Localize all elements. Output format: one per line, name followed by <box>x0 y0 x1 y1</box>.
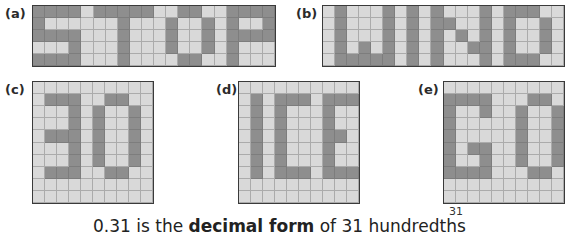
grid-cell <box>105 179 117 191</box>
grid-cell <box>190 30 202 42</box>
grid-cell-shaded <box>335 30 347 42</box>
grid-cell <box>504 106 516 118</box>
grid-cell <box>81 130 93 142</box>
grid-cell <box>57 106 69 118</box>
grid-cell <box>117 155 129 167</box>
grid-cell <box>33 94 45 106</box>
grid-cell <box>93 179 105 191</box>
grid-cell-shaded <box>202 42 214 54</box>
grid-cell <box>287 118 299 130</box>
grid-cell-shaded <box>166 42 178 54</box>
grid-cell-shaded <box>166 30 178 42</box>
grid-cell-shaded <box>45 6 57 18</box>
grid-cell <box>81 54 93 66</box>
grid-cell-shaded <box>251 6 263 18</box>
grid-cell <box>516 42 528 54</box>
grid-cell <box>444 54 456 66</box>
grid-cell <box>504 155 516 167</box>
grid-cell <box>516 191 528 203</box>
grid-cell-shaded <box>528 6 540 18</box>
grid-cell <box>33 106 45 118</box>
grid-cell <box>347 130 359 142</box>
grid-cell-shaded <box>504 18 516 30</box>
grid-cell <box>251 191 263 203</box>
grid-cell <box>45 106 57 118</box>
grid-cell-shaded <box>33 6 45 18</box>
grid-cell <box>141 191 153 203</box>
grid-cell <box>492 42 504 54</box>
grid-cell-shaded <box>275 94 287 106</box>
grid-cell-shaded <box>444 106 456 118</box>
grid-cell <box>480 130 492 142</box>
grid-cell <box>263 54 275 66</box>
grid-cell <box>528 30 540 42</box>
grid-cell <box>299 82 311 94</box>
grid-cell-shaded <box>552 130 564 142</box>
grid-cell <box>141 106 153 118</box>
grid-cell <box>419 54 431 66</box>
grid-cell-shaded <box>287 94 299 106</box>
grid-cell-shaded <box>299 94 311 106</box>
grid-cell-shaded <box>480 155 492 167</box>
grid-cell-shaded <box>129 155 141 167</box>
grid-cell-shaded <box>57 94 69 106</box>
grid-cell-shaded <box>57 54 69 66</box>
grid-cell-shaded <box>359 54 371 66</box>
grid-cell-shaded <box>69 94 81 106</box>
grid-cell <box>468 106 480 118</box>
grid-cell <box>323 179 335 191</box>
panel-label: (c) <box>5 82 25 97</box>
grid-cell <box>347 30 359 42</box>
grid-cell-shaded <box>444 155 456 167</box>
grid-cell <box>130 42 142 54</box>
grid-cell <box>540 82 552 94</box>
grid-cell <box>202 6 214 18</box>
grid-cell <box>444 82 456 94</box>
grid-cell <box>129 167 141 179</box>
grid-cell <box>81 118 93 130</box>
grid-cell <box>359 6 371 18</box>
grid-cell-shaded <box>93 106 105 118</box>
grid-cell-shaded <box>178 54 190 66</box>
grid-cell <box>323 54 335 66</box>
grid-cell <box>480 179 492 191</box>
grid-cell <box>57 179 69 191</box>
grid-cell <box>33 191 45 203</box>
grid-cell <box>516 30 528 42</box>
grid-cell-shaded <box>239 6 251 18</box>
grid-cell-shaded <box>516 54 528 66</box>
grid-cell <box>45 18 57 30</box>
grid-cell <box>504 118 516 130</box>
grid-cell <box>395 42 407 54</box>
grid-cell <box>347 143 359 155</box>
grid-cell-shaded <box>540 94 552 106</box>
grid-cell <box>239 155 251 167</box>
grid-cell-shaded <box>299 167 311 179</box>
grid-cell <box>468 6 480 18</box>
grid-cell <box>81 143 93 155</box>
grid-cell <box>323 191 335 203</box>
grid-cell <box>190 42 202 54</box>
panel-label: (e) <box>418 82 439 97</box>
grid-cell <box>552 30 564 42</box>
grid-cell-shaded <box>69 143 81 155</box>
grid-cell <box>311 155 323 167</box>
grid-cell-shaded <box>69 54 81 66</box>
grid-cell <box>468 30 480 42</box>
panel-label: (d) <box>216 82 237 97</box>
grid-cell <box>528 42 540 54</box>
grid-cell-shaded <box>528 167 540 179</box>
grid-cell <box>492 18 504 30</box>
grid-cell-shaded <box>528 54 540 66</box>
grid-cell-shaded <box>480 54 492 66</box>
pixel-grid-wind <box>322 5 565 67</box>
grid-cell <box>347 106 359 118</box>
grid-cell <box>419 18 431 30</box>
grid-cell <box>45 42 57 54</box>
grid-cell-shaded <box>431 18 443 30</box>
grid-cell <box>141 82 153 94</box>
grid-cell-shaded <box>468 94 480 106</box>
grid-cell-shaded <box>129 130 141 142</box>
grid-cell-shaded <box>468 42 480 54</box>
grid-cell <box>81 82 93 94</box>
